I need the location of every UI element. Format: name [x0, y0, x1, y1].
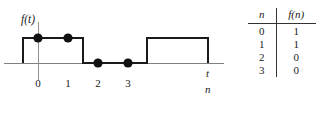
table-row: 0 1	[248, 24, 316, 39]
sample-value-table: n f(n) 0 1 1 1 2 0 3 0	[248, 8, 316, 86]
signal-graph: f(t) t n 0 1 2 3	[0, 0, 232, 115]
table-row: 2 0	[248, 51, 316, 64]
y-axis-label: f(t)	[21, 14, 35, 26]
fn-table-header-fn: f(n)	[276, 8, 316, 24]
tick-label-2: 2	[90, 78, 106, 89]
sample-dot-n2	[93, 58, 102, 67]
fn-table-cell-n: 3	[248, 64, 276, 77]
fn-table-cell-fn: 1	[276, 24, 316, 39]
step-waveform	[23, 38, 208, 63]
fn-table: n f(n) 0 1 1 1 2 0 3 0	[248, 8, 316, 77]
tick-label-0: 0	[30, 78, 46, 89]
fn-table-cell-fn: 0	[276, 51, 316, 64]
sample-dot-n1	[63, 33, 72, 42]
table-row: 3 0	[248, 64, 316, 77]
fn-table-cell-n: 1	[248, 38, 276, 51]
table-row: 1 1	[248, 38, 316, 51]
fn-table-cell-fn: 0	[276, 64, 316, 77]
x-axis-label-t: t	[206, 68, 209, 79]
sample-dot-n0	[33, 33, 42, 42]
tick-label-1: 1	[60, 78, 76, 89]
sample-dot-n3	[123, 58, 132, 67]
fn-table-cell-n: 0	[248, 24, 276, 39]
tick-label-3: 3	[120, 78, 136, 89]
fn-table-cell-n: 2	[248, 51, 276, 64]
fn-table-cell-fn: 1	[276, 38, 316, 51]
fn-table-body: 0 1 1 1 2 0 3 0	[248, 24, 316, 78]
fn-table-header-row: n f(n)	[248, 8, 316, 24]
figure-sampled-signal: f(t) t n 0 1 2 3 n f(n) 0 1 1 1	[0, 0, 320, 115]
x-axis-label-n: n	[205, 84, 211, 95]
fn-table-header-n: n	[248, 8, 276, 24]
fn-table-head: n f(n)	[248, 8, 316, 24]
